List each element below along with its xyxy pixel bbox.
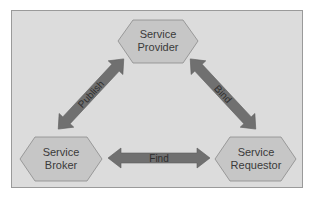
service-requestor-line2: Requestor	[231, 159, 282, 171]
publish-arrow: Publish	[51, 52, 131, 136]
bind-arrow: Bind	[183, 52, 263, 136]
service-broker-line1: Service	[43, 146, 80, 158]
soa-diagram: Publish Bind Find Service Provider Servi…	[0, 0, 313, 203]
service-provider-node: Service Provider	[118, 20, 198, 63]
find-label: Find	[149, 153, 168, 164]
service-provider-line1: Service	[140, 28, 177, 40]
service-requestor-line1: Service	[238, 146, 275, 158]
service-broker-node: Service Broker	[20, 137, 102, 181]
service-provider-line2: Provider	[138, 41, 179, 53]
service-broker-line2: Broker	[45, 159, 78, 171]
find-arrow: Find	[108, 148, 210, 168]
service-requestor-node: Service Requestor	[215, 137, 296, 181]
publish-label: Publish	[76, 78, 106, 109]
